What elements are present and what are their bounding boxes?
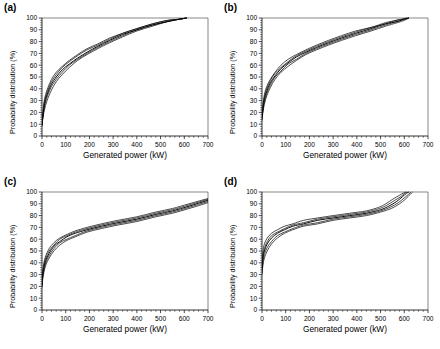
x-tick-label: 500 <box>375 141 386 148</box>
panel-b: (b)0100200300400500600700010203040506070… <box>220 0 440 174</box>
panel-label-c: (c) <box>4 176 17 187</box>
y-tick-label: 10 <box>250 295 258 302</box>
curve-a-5 <box>42 18 187 125</box>
curve-group <box>42 192 220 288</box>
x-tick-label: 600 <box>179 141 190 148</box>
x-tick-label: 0 <box>40 141 44 148</box>
curve-b-1 <box>262 18 409 121</box>
y-tick-label: 10 <box>30 121 38 128</box>
y-tick-label: 30 <box>30 271 38 278</box>
y-tick-label: 80 <box>250 38 258 45</box>
x-tick-label: 100 <box>280 315 291 322</box>
y-tick-label: 90 <box>30 200 38 207</box>
y-tick-label: 0 <box>254 306 258 313</box>
y-tick-label: 50 <box>30 247 38 254</box>
y-tick-label: 10 <box>30 295 38 302</box>
panel-c: (c)0100200300400500600700010203040506070… <box>0 174 220 348</box>
x-axis-title-a: Generated power (kW) <box>42 150 208 160</box>
x-tick-label: 200 <box>304 315 315 322</box>
y-tick-label: 20 <box>250 109 258 116</box>
y-axis-title-d: Probability distribution (%) <box>228 225 237 309</box>
y-tick-label: 60 <box>250 236 258 243</box>
x-tick-label: 400 <box>351 141 362 148</box>
y-axis-title-a: Probability distribution (%) <box>8 51 17 135</box>
y-tick-label: 100 <box>246 188 257 195</box>
curve-group <box>262 192 413 275</box>
y-tick-label: 70 <box>30 50 38 57</box>
y-tick-label: 80 <box>30 38 38 45</box>
plot-frame <box>42 192 208 310</box>
x-tick-label: 100 <box>60 141 71 148</box>
y-tick-label: 30 <box>30 97 38 104</box>
curve-b-5 <box>262 18 407 116</box>
curve-a-1 <box>42 18 187 125</box>
y-tick-label: 10 <box>250 121 258 128</box>
y-tick-label: 60 <box>30 62 38 69</box>
y-tick-label: 80 <box>30 212 38 219</box>
y-tick-label: 80 <box>250 212 258 219</box>
x-tick-label: 700 <box>422 315 433 322</box>
plot-b: 0100200300400500600700010203040506070809… <box>220 0 440 174</box>
y-tick-label: 70 <box>250 50 258 57</box>
x-tick-label: 400 <box>131 315 142 322</box>
panel-d: (d)0100200300400500600700010203040506070… <box>220 174 440 348</box>
x-axis-title-c: Generated power (kW) <box>42 324 208 334</box>
x-tick-label: 300 <box>328 315 339 322</box>
y-tick-label: 100 <box>26 188 37 195</box>
y-tick-label: 50 <box>250 73 258 80</box>
y-tick-label: 40 <box>30 259 38 266</box>
x-tick-label: 500 <box>155 315 166 322</box>
x-tick-label: 200 <box>84 141 95 148</box>
y-tick-label: 20 <box>250 283 258 290</box>
x-tick-label: 600 <box>179 315 190 322</box>
panel-label-d: (d) <box>224 176 237 187</box>
curve-a-3 <box>42 18 187 125</box>
y-tick-label: 0 <box>34 132 38 139</box>
x-tick-label: 0 <box>260 141 264 148</box>
x-tick-label: 700 <box>202 141 213 148</box>
y-tick-label: 60 <box>30 236 38 243</box>
x-tick-label: 600 <box>399 141 410 148</box>
x-tick-label: 300 <box>328 141 339 148</box>
y-tick-label: 100 <box>26 14 37 21</box>
y-tick-label: 0 <box>254 132 258 139</box>
y-tick-label: 90 <box>30 26 38 33</box>
x-tick-label: 300 <box>108 315 119 322</box>
x-axis-title-d: Generated power (kW) <box>262 324 428 334</box>
curve-a-2 <box>42 18 187 125</box>
y-tick-label: 30 <box>250 97 258 104</box>
curve-d-1 <box>262 192 413 275</box>
curve-c-5 <box>42 192 220 283</box>
plot-axes <box>42 192 208 310</box>
x-tick-label: 400 <box>131 141 142 148</box>
plot-frame <box>262 192 428 310</box>
figure-container: (a)0100200300400500600700010203040506070… <box>0 0 440 349</box>
x-tick-label: 600 <box>399 315 410 322</box>
plot-axes <box>262 192 428 310</box>
x-tick-label: 0 <box>260 315 264 322</box>
x-tick-label: 500 <box>155 141 166 148</box>
y-tick-label: 50 <box>250 247 258 254</box>
y-tick-label: 20 <box>30 283 38 290</box>
x-tick-label: 200 <box>304 141 315 148</box>
y-tick-label: 70 <box>250 224 258 231</box>
panel-label-b: (b) <box>224 2 237 13</box>
x-tick-label: 500 <box>375 315 386 322</box>
y-tick-label: 40 <box>250 259 258 266</box>
curve-d-4 <box>262 192 407 265</box>
y-tick-label: 50 <box>30 73 38 80</box>
plot-d: 0100200300400500600700010203040506070809… <box>220 174 440 348</box>
x-tick-label: 0 <box>40 315 44 322</box>
x-tick-label: 200 <box>84 315 95 322</box>
y-tick-label: 60 <box>250 62 258 69</box>
plot-a: 0100200300400500600700010203040506070809… <box>0 0 220 174</box>
y-tick-label: 40 <box>30 85 38 92</box>
y-tick-label: 70 <box>30 224 38 231</box>
y-tick-label: 100 <box>246 14 257 21</box>
curve-a-4 <box>42 18 187 125</box>
curve-d-5 <box>262 192 405 260</box>
curve-group <box>42 18 187 125</box>
y-tick-label: 0 <box>34 306 38 313</box>
x-tick-label: 400 <box>351 315 362 322</box>
plot-c: 0100200300400500600700010203040506070809… <box>0 174 220 348</box>
